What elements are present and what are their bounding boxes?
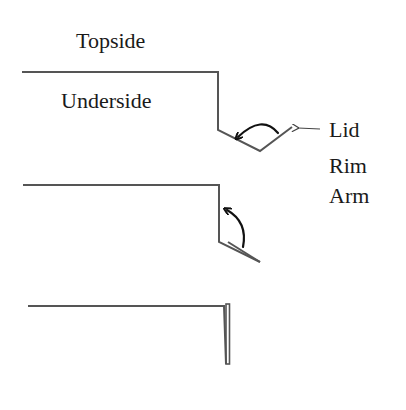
stage-2-lid-partially-folded: [23, 185, 260, 262]
label-arm: Arm: [329, 183, 369, 208]
stage-3-folded-lid: [226, 304, 230, 364]
stage-2-fold-arrow-icon: [227, 210, 244, 247]
stage-2-outline: [23, 185, 260, 262]
stage-1-fold-arrow-icon: [238, 124, 278, 137]
label-underside: Underside: [61, 88, 151, 113]
label-rim: Rim: [329, 153, 367, 178]
label-topside: Topside: [76, 28, 145, 53]
lid-pointer-arrow-icon: [298, 128, 320, 129]
diagram-svg: Topside Underside Lid Rim Arm: [0, 0, 406, 410]
diagram-canvas: Topside Underside Lid Rim Arm: [0, 0, 406, 410]
stage-3-lid-fully-folded: [28, 304, 230, 364]
stage-3-outline: [28, 306, 226, 364]
label-lid: Lid: [329, 117, 360, 142]
